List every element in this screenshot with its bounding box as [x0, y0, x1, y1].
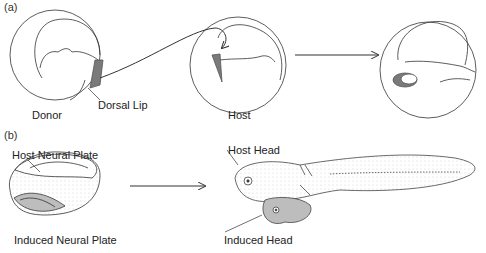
dorsal-lip-label: Dorsal Lip: [98, 100, 148, 111]
host-embryo: [190, 17, 286, 113]
tadpole: [235, 155, 475, 223]
host-neural-plate-label: Host Neural Plate: [12, 150, 98, 161]
induced-head-leader: [225, 215, 262, 232]
transplant-arrow: [100, 28, 226, 78]
induced-neural-plate-label: Induced Neural Plate: [14, 235, 117, 246]
dorsal-lip-tissue: [90, 60, 103, 88]
host-head-label: Host Head: [228, 145, 280, 156]
grafted-dorsal-lip: [212, 54, 222, 82]
panel-a-label: (a): [4, 2, 17, 13]
donor-embryo: [10, 10, 103, 100]
diagram-canvas: [0, 0, 486, 253]
induced-head: [263, 197, 311, 223]
host-caption: Host: [228, 110, 251, 121]
donor-caption: Donor: [32, 110, 62, 121]
result-embryo: [380, 21, 476, 118]
neural-plate-embryo: [9, 152, 100, 215]
induced-head-label: Induced Head: [224, 235, 293, 246]
panel-b-label: (b): [4, 130, 17, 141]
